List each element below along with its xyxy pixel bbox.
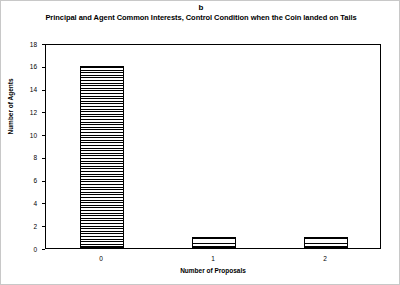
- y-tick-label: 14: [30, 85, 37, 94]
- y-tick-label: 2: [33, 222, 37, 231]
- y-tick-label: 10: [30, 131, 37, 140]
- plot-area: [45, 44, 381, 249]
- x-tick-label: 0: [81, 254, 121, 263]
- y-tick-label: 8: [33, 153, 37, 162]
- bar: [304, 237, 348, 248]
- y-axis-title: Number of Agents: [7, 42, 14, 172]
- x-tick-label: 1: [193, 254, 233, 263]
- y-tick-mark: [42, 249, 45, 250]
- y-tick-label: 12: [30, 108, 37, 117]
- y-tick-label: 4: [33, 199, 37, 208]
- x-axis-title: Number of Proposals: [45, 267, 381, 274]
- y-tick-label: 0: [33, 245, 37, 254]
- y-tick-label: 6: [33, 176, 37, 185]
- figure-container: b Principal and Agent Common Interests, …: [0, 0, 400, 285]
- y-tick-label: 16: [30, 62, 37, 71]
- panel-label: b: [1, 3, 400, 13]
- x-tick-label: 2: [305, 254, 345, 263]
- bar: [192, 237, 236, 248]
- y-tick-label: 18: [30, 40, 37, 49]
- bars-layer: [46, 45, 380, 248]
- bar: [80, 66, 124, 248]
- chart-title: Principal and Agent Common Interests, Co…: [31, 13, 371, 24]
